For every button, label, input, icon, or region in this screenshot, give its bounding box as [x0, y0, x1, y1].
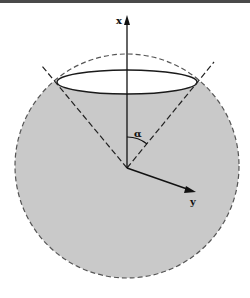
cone-sphere-diagram: x y α	[0, 0, 250, 298]
angle-alpha-label: α	[134, 128, 142, 139]
x-axis-arrowhead-icon	[124, 15, 130, 25]
x-axis-label: x	[116, 15, 123, 26]
y-axis-label: y	[189, 196, 197, 207]
